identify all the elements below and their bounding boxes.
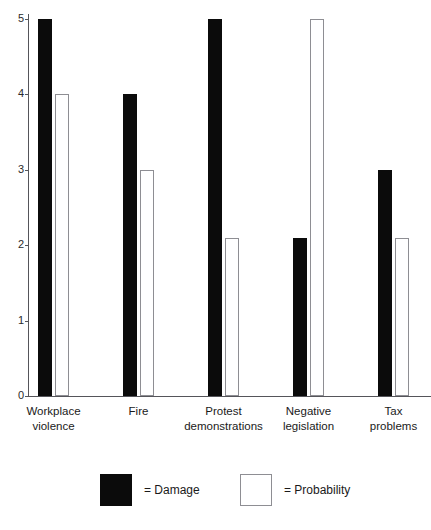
- y-axis-tick-label: 1: [0, 315, 24, 326]
- y-axis-tick-label: 4: [0, 88, 24, 99]
- chart-legend: = Damage= Probability: [0, 470, 431, 520]
- bar-damage-4: [293, 238, 307, 396]
- bar-damage-2: [123, 94, 137, 396]
- y-axis-tick-mark: [25, 396, 29, 397]
- bar-probability-1: [55, 94, 69, 396]
- legend-swatch-damage-icon: [100, 474, 132, 506]
- x-axis-category-label-line2: violence: [0, 419, 109, 434]
- bar-damage-3: [208, 19, 222, 396]
- legend-entry-damage: = Damage: [100, 474, 200, 506]
- bar-probability-5: [395, 238, 409, 396]
- legend-swatch-probability-icon: [240, 474, 272, 506]
- y-axis-tick-mark: [25, 19, 29, 20]
- y-axis-tick-label: 2: [0, 239, 24, 250]
- x-axis-category-label-line2: problems: [339, 419, 431, 434]
- bar-damage-5: [378, 170, 392, 396]
- legend-label: = Probability: [284, 483, 350, 497]
- y-axis-tick-mark: [25, 170, 29, 171]
- y-axis-tick-mark: [25, 245, 29, 246]
- bar-probability-2: [140, 170, 154, 396]
- x-axis-category-label: Taxproblems: [339, 404, 431, 434]
- y-axis-line: [28, 14, 29, 397]
- x-axis-category-label-line1: Tax: [339, 404, 431, 419]
- bar-probability-4: [310, 19, 324, 396]
- legend-entry-probability: = Probability: [240, 474, 350, 506]
- y-axis-tick-label: 0: [0, 390, 24, 401]
- y-axis-tick-mark: [25, 94, 29, 95]
- risk-assessment-bar-chart: 012345 WorkplaceviolenceFireProtestdemon…: [0, 0, 431, 530]
- y-axis-tick-label: 5: [0, 13, 24, 24]
- y-axis-tick-mark: [25, 321, 29, 322]
- y-axis-tick-label: 3: [0, 164, 24, 175]
- bar-probability-3: [225, 238, 239, 396]
- legend-label: = Damage: [144, 483, 200, 497]
- x-axis-line: [28, 396, 431, 397]
- bar-damage-1: [38, 19, 52, 396]
